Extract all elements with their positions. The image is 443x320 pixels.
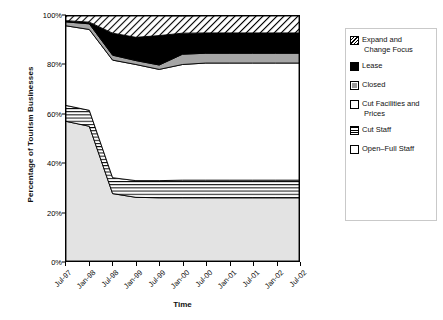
x-tick-mark — [112, 262, 113, 266]
x-tick-mark — [230, 262, 231, 266]
legend-item-1[interactable]: Expand and Change Focus — [350, 35, 432, 54]
chart-legend: Expand and Change FocusLeaseClosedCut Fa… — [345, 28, 437, 221]
legend-item-5[interactable]: Cut Staff — [350, 125, 432, 135]
y-tick-label: 60% — [28, 109, 62, 118]
plot-area — [65, 15, 300, 262]
legend-item-label: Expand and Change Focus — [362, 35, 413, 54]
legend-swatch-icon — [350, 36, 359, 45]
y-tick-label: 20% — [28, 208, 62, 217]
x-tick-mark — [277, 262, 278, 266]
legend-swatch-icon — [350, 100, 359, 109]
y-tick-label: 80% — [28, 60, 62, 69]
x-tick-mark — [65, 262, 66, 266]
legend-swatch-icon — [350, 145, 359, 154]
legend-item-2[interactable]: Lease — [350, 61, 432, 71]
y-tick-label: 100% — [28, 11, 62, 20]
x-tick-mark — [159, 262, 160, 266]
x-tick-mark — [136, 262, 137, 266]
legend-item-3[interactable]: Closed — [350, 80, 432, 90]
y-axis-ticks: 0%20%40%60%80%100% — [22, 15, 62, 262]
legend-swatch-icon — [350, 62, 359, 71]
legend-item-label: Lease — [362, 61, 382, 71]
x-tick-mark — [183, 262, 184, 266]
x-tick-mark — [300, 262, 301, 266]
legend-swatch-icon — [350, 126, 359, 135]
x-axis-title: Time — [65, 300, 300, 309]
legend-item-label: Cut Facilities and Prices — [362, 99, 420, 118]
stacked-area-svg — [66, 16, 299, 261]
y-tick-label: 40% — [28, 159, 62, 168]
legend-item-label: Cut Staff — [362, 125, 391, 135]
x-tick-mark — [89, 262, 90, 266]
legend-item-4[interactable]: Cut Facilities and Prices — [350, 99, 432, 118]
legend-swatch-icon — [350, 81, 359, 90]
x-tick-mark — [206, 262, 207, 266]
legend-item-label: Closed — [362, 80, 385, 90]
legend-item-6[interactable]: Open–Full Staff — [350, 144, 432, 154]
legend-item-label: Open–Full Staff — [362, 144, 414, 154]
x-axis-ticks: Jul-97Jan-98Jul-98Jan-99Jul-99Jan-00Jul-… — [65, 262, 300, 320]
y-tick-label: 0% — [28, 258, 62, 267]
chart-root: Percentage of Tourism Businesses 0%20%40… — [0, 0, 443, 320]
x-tick-mark — [253, 262, 254, 266]
